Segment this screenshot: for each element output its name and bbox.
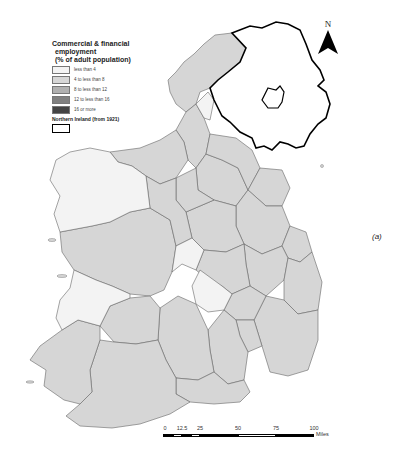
- map-legend: Commercial & financial employment (% of …: [52, 40, 182, 133]
- legend-item: less than 4: [52, 65, 182, 74]
- scale-bar-segments: Miles: [163, 434, 353, 438]
- legend-swatch-16-or-more: [52, 106, 70, 114]
- legend-swatch-12-to-16: [52, 96, 70, 104]
- legend-item: 8 to less than 12: [52, 85, 182, 94]
- north-arrow-icon: [317, 29, 339, 55]
- scale-tick: 50: [235, 425, 241, 431]
- northern-ireland-label: Northern Ireland (from 1921): [52, 116, 182, 122]
- scale-units: Miles: [316, 431, 329, 437]
- panel-label: (a): [372, 232, 382, 241]
- legend-item: 4 to less than 8: [52, 75, 182, 84]
- scale-tick: 25: [197, 425, 203, 431]
- county-kerry: [30, 320, 100, 404]
- legend-swatch-4-to-8: [52, 76, 70, 84]
- legend-item: 12 to less than 16: [52, 95, 182, 104]
- legend-swatch-8-to-12: [52, 86, 70, 94]
- county-wicklow: [284, 252, 322, 314]
- scale-bar: 0 12.5 25 50 75 100 Miles: [163, 425, 353, 438]
- scale-tick: 12.5: [177, 425, 188, 431]
- scale-tick: 75: [273, 425, 279, 431]
- legend-title: Commercial & financial employment (% of …: [52, 40, 182, 64]
- north-letter: N: [317, 19, 339, 29]
- legend-swatch-less-than-4: [52, 66, 70, 74]
- north-arrow: N: [317, 19, 339, 59]
- legend-item: 16 or more: [52, 105, 182, 114]
- northern-ireland-swatch: [52, 124, 70, 133]
- scale-tick: 0: [163, 425, 166, 431]
